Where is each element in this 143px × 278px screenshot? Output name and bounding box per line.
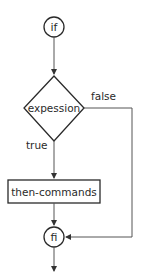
process-label: then-commands <box>11 186 97 198</box>
edge-false-to-end <box>66 108 132 237</box>
decision-node-expression: expession <box>24 76 84 141</box>
false-edge-label: false <box>91 90 116 102</box>
process-node-then-commands: then-commands <box>8 180 100 203</box>
decision-label: expession <box>28 102 81 114</box>
end-label: fi <box>51 231 58 244</box>
flowchart-diagram: if expession false true then-commands fi <box>0 0 143 278</box>
start-label: if <box>51 21 59 34</box>
start-node-if: if <box>44 17 64 37</box>
end-node-fi: fi <box>44 227 64 247</box>
true-edge-label: true <box>26 139 48 151</box>
